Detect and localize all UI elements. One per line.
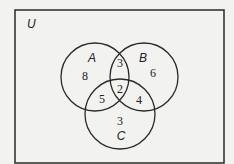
set-b-label: B: [139, 51, 147, 65]
venn-diagram: U A B C 8 6 3 3 5 4 2: [0, 0, 234, 164]
set-c-label: C: [117, 129, 126, 143]
region-a-and-b-value: 3: [117, 56, 123, 70]
region-c-only-value: 3: [117, 114, 123, 128]
universe-label: U: [27, 17, 36, 31]
region-b-and-c-value: 4: [136, 93, 142, 107]
region-b-only-value: 6: [150, 66, 156, 80]
region-a-b-c-value: 2: [117, 82, 123, 96]
venn-diagram-canvas: U A B C 8 6 3 3 5 4 2: [0, 0, 234, 164]
region-a-only-value: 8: [82, 69, 88, 83]
set-a-label: A: [87, 51, 96, 65]
region-a-and-c-value: 5: [99, 92, 105, 106]
